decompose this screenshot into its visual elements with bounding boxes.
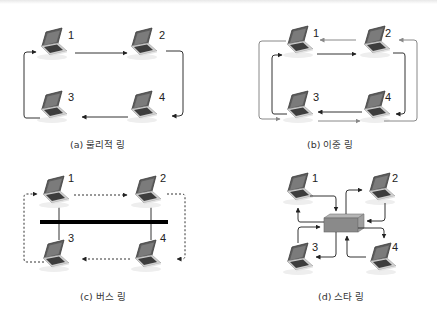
- node-label-a2: 2: [159, 29, 165, 41]
- laptop-icon-c1: [39, 176, 69, 208]
- inner-link-b-2-4: [393, 53, 405, 114]
- node-label-a3: 3: [68, 91, 74, 103]
- node-label-b1: 1: [313, 27, 319, 39]
- node-label-b3: 3: [313, 91, 319, 103]
- laptop-icon-a4: [127, 91, 157, 123]
- link-a-2-4: [166, 51, 183, 116]
- ring-link-c-2-4: [167, 194, 185, 259]
- laptop-icon-a1: [37, 28, 67, 60]
- panel-d-star-ring: 1 2 3 4 (d) 스타 링: [283, 172, 398, 302]
- caption-b: (b) 이중 링: [307, 139, 353, 150]
- caption-c: (c) 버스 링: [80, 291, 126, 302]
- node-label-c3: 3: [68, 232, 74, 244]
- link-d-1-hub: [310, 196, 336, 211]
- laptop-icon-a3: [37, 91, 67, 123]
- node-label-c1: 1: [68, 172, 74, 184]
- laptop-icon-d1: [283, 173, 313, 205]
- link-d-hub-3: [316, 232, 336, 257]
- link-d-hub-1: [298, 208, 324, 222]
- node-label-d3: 3: [312, 241, 318, 253]
- node-label-a1: 1: [68, 29, 74, 41]
- inner-link-b-3-1: [272, 55, 287, 114]
- laptop-icon-c4: [131, 240, 161, 272]
- network-topology-figure: 1 2 3 4 (a) 물리적 링 1 2 3 4 (b) 이중 링: [0, 0, 437, 317]
- caption-a: (a) 물리적 링: [70, 139, 125, 150]
- laptop-icon-d2: [365, 173, 395, 205]
- laptop-icon-b1: [283, 26, 313, 58]
- laptop-icon-d3: [283, 243, 313, 275]
- link-a-3-1: [24, 52, 40, 118]
- panel-a-physical-ring: 1 2 3 4 (a) 물리적 링: [24, 28, 183, 150]
- node-label-c2: 2: [160, 172, 166, 184]
- laptop-icon-b3: [283, 91, 313, 123]
- node-label-b2: 2: [385, 27, 391, 39]
- laptop-icon-a2: [127, 28, 157, 60]
- panel-b-dual-ring: 1 2 3 4 (b) 이중 링: [259, 26, 417, 150]
- node-label-d2: 2: [392, 172, 398, 184]
- hub-icon: [324, 214, 364, 232]
- link-d-2-hub: [367, 203, 385, 221]
- node-label-d4: 4: [392, 241, 398, 253]
- outer-link-b-4-2: [384, 40, 417, 121]
- caption-d: (d) 스타 링: [318, 291, 364, 302]
- node-label-b4: 4: [385, 91, 391, 103]
- laptop-icon-c3: [39, 240, 69, 272]
- node-label-a4: 4: [159, 91, 165, 103]
- link-d-hub-2: [346, 190, 362, 214]
- node-label-d1: 1: [312, 172, 318, 184]
- laptop-icon-c2: [131, 176, 161, 208]
- node-label-c4: 4: [160, 232, 166, 244]
- panel-c-bus-ring: 1 2 3 4 (c) 버스 링: [24, 172, 185, 302]
- link-d-4-hub: [347, 236, 366, 257]
